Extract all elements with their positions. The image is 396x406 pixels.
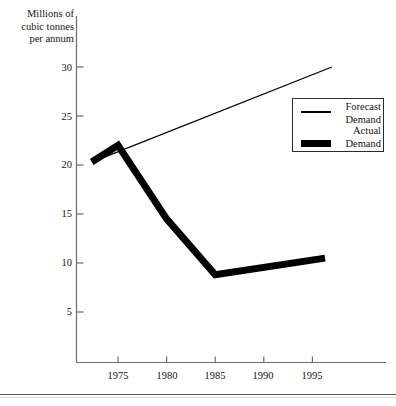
chart-legend: Forecast Demand Actual Demand <box>292 98 384 152</box>
legend-label-actual: Actual Demand <box>333 125 381 150</box>
y-tick-label-5: 5 <box>48 306 72 317</box>
x-tick-label-1990: 1990 <box>243 370 283 381</box>
legend-label-forecast: Forecast Demand <box>333 101 381 126</box>
legend-swatch-thin-line-icon <box>301 111 331 113</box>
legend-entry-forecast: Forecast Demand <box>293 101 385 127</box>
chart-figure: Millions of cubic tonnes per annum 30 25… <box>0 0 396 406</box>
y-axis-title: Millions of cubic tonnes per annum <box>14 8 74 46</box>
y-tick-label-20: 20 <box>48 159 72 170</box>
y-tick-label-30: 30 <box>48 62 72 73</box>
legend-entry-actual: Actual Demand <box>293 125 385 151</box>
y-tick-label-15: 15 <box>48 208 72 219</box>
axes-layer <box>77 16 387 363</box>
series-line-actual-demand <box>92 145 325 274</box>
legend-swatch-thick-line-icon <box>301 140 331 147</box>
page-rule-primary <box>0 394 396 395</box>
x-tick-label-1995: 1995 <box>292 370 332 381</box>
y-tick-label-10: 10 <box>48 257 72 268</box>
x-tick-label-1975: 1975 <box>98 370 138 381</box>
y-tick-label-25: 25 <box>48 111 72 122</box>
x-tick-label-1980: 1980 <box>147 370 187 381</box>
page-rule-secondary <box>0 397 396 398</box>
line-chart-plot <box>0 0 396 406</box>
x-tick-label-1985: 1985 <box>195 370 235 381</box>
